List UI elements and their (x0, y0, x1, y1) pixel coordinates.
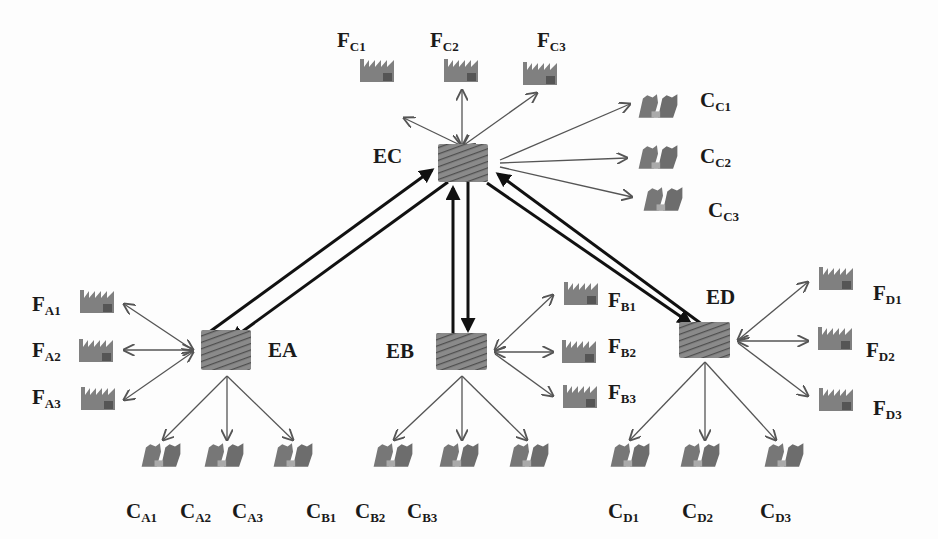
factory-label-fc3: FC3 (537, 30, 566, 53)
client-cb2-icon (440, 443, 479, 467)
factory-label-fd1: FD1 (873, 283, 902, 306)
client-label-cb2: CB2 (355, 501, 385, 524)
hub-ec-icon (438, 144, 488, 182)
hub-label-ea: EA (268, 340, 297, 361)
client-cb3-icon (510, 443, 549, 467)
client-cd1-icon (611, 443, 650, 467)
factory-label-fb2: FB2 (608, 336, 636, 359)
factory-label-fb3: FB3 (608, 382, 636, 405)
client-label-cc1: CC1 (700, 90, 731, 113)
factory-fb3-icon (563, 385, 597, 408)
factory-fd3-icon (819, 388, 853, 411)
factory-label-fa3: FA3 (32, 387, 61, 410)
ec-spokes (404, 90, 632, 197)
client-label-cd3: CD3 (760, 501, 791, 524)
hub-label-ed: ED (706, 287, 735, 308)
client-ca3-icon (274, 443, 313, 467)
factory-label-fa2: FA2 (32, 340, 61, 363)
factory-label-fd3: FD3 (873, 398, 902, 421)
client-ca2-icon (205, 443, 244, 467)
factory-label-fd2: FD2 (866, 340, 895, 363)
factory-label-fa1: FA1 (32, 294, 61, 317)
client-ca1-icon (142, 443, 181, 467)
factory-label-fb1: FB1 (608, 290, 636, 313)
client-cc1-icon (639, 94, 678, 118)
factory-fb2-icon (562, 340, 596, 363)
factory-fa1-icon (80, 290, 114, 313)
factory-fd1-icon (819, 267, 853, 290)
hub-ea-icon (201, 330, 251, 370)
client-label-cd2: CD2 (682, 501, 713, 524)
client-label-cb1: CB1 (306, 501, 336, 524)
links-layer (0, 0, 938, 539)
hub-label-ec: EC (373, 146, 402, 167)
client-cb1-icon (374, 443, 413, 467)
client-label-cd1: CD1 (608, 501, 639, 524)
hub-ed-icon (679, 322, 730, 358)
network-diagram: EC EA EB ED FC1 FC2 FC3 FA1 FA2 FA3 FB1 … (0, 0, 938, 539)
hub-eb-icon (436, 333, 487, 370)
factory-label-fc1: FC1 (337, 30, 366, 53)
client-label-ca2: CA2 (180, 501, 211, 524)
factory-fd2-icon (818, 327, 852, 350)
factory-label-fc2: FC2 (430, 30, 459, 53)
client-cd2-icon (681, 443, 720, 467)
client-label-cc2: CC2 (700, 146, 731, 169)
client-label-cc3: CC3 (708, 200, 739, 223)
client-cc2-icon (639, 145, 678, 169)
factory-fa3-icon (81, 387, 115, 410)
factory-fc1-icon (360, 59, 394, 82)
factory-fb1-icon (564, 282, 598, 305)
hub-label-eb: EB (386, 341, 414, 362)
factory-fc3-icon (523, 62, 557, 85)
ea-spokes (124, 304, 293, 440)
factory-fc2-icon (444, 59, 478, 82)
client-label-ca1: CA1 (126, 501, 157, 524)
client-cc3-icon (644, 187, 683, 211)
client-cd3-icon (765, 443, 804, 467)
client-label-ca3: CA3 (232, 501, 263, 524)
client-label-cb3: CB3 (407, 501, 437, 524)
factory-fa2-icon (79, 339, 113, 362)
